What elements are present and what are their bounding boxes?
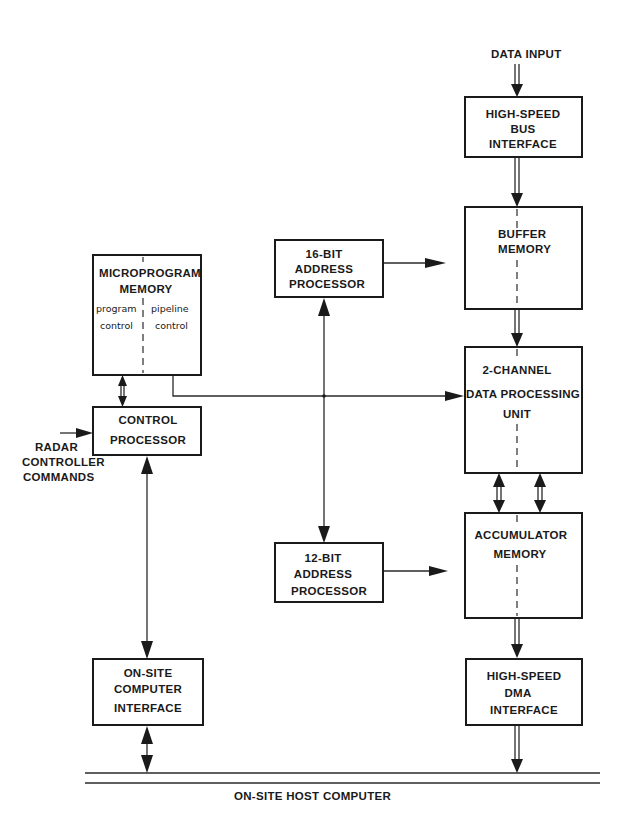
high-speed-bus-interface-block: HIGH-SPEED BUS INTERFACE xyxy=(465,97,582,157)
svg-text:DMA: DMA xyxy=(504,687,531,699)
data-input-arrow xyxy=(511,64,523,97)
svg-text:BUFFER: BUFFER xyxy=(498,228,547,240)
svg-text:ACCUMULATOR: ACCUMULATOR xyxy=(475,529,568,541)
address-processor-12bit-block: 12-BIT ADDRESS PROCESSOR xyxy=(275,543,383,602)
data-input-label: DATA INPUT xyxy=(491,48,562,60)
buffer-to-dpu-arrow xyxy=(511,310,523,347)
buffer-memory-block: BUFFER MEMORY xyxy=(465,207,582,309)
addr12-to-accumulator-arrow xyxy=(384,566,448,576)
pipeline-control-to-dpu-line xyxy=(173,376,464,401)
svg-text:INTERFACE: INTERFACE xyxy=(489,138,557,150)
svg-text:HIGH-SPEED: HIGH-SPEED xyxy=(487,670,562,682)
svg-text:pipeline: pipeline xyxy=(151,303,189,314)
svg-text:INTERFACE: INTERFACE xyxy=(114,702,182,714)
dma-to-host-arrow xyxy=(511,726,523,773)
onsite-computer-interface-block: ON-SITE COMPUTER INTERFACE xyxy=(93,659,203,725)
radar-commands-label-line2: CONTROLLER xyxy=(22,456,105,468)
control-processor-block: CONTROL PROCESSOR xyxy=(93,407,201,455)
radar-commands-label-line3: COMMANDS xyxy=(23,471,94,483)
svg-text:BUS: BUS xyxy=(510,123,535,135)
svg-text:HIGH-SPEED: HIGH-SPEED xyxy=(486,108,561,120)
address-processor-16bit-block: 16-BIT ADDRESS PROCESSOR xyxy=(275,240,383,297)
microprogram-memory-block: MICROPROGRAM MEMORY program control pipe… xyxy=(93,255,201,375)
addr16-to-buffer-arrow xyxy=(384,258,446,268)
high-speed-dma-interface-block: HIGH-SPEED DMA INTERFACE xyxy=(466,659,582,725)
svg-text:UNIT: UNIT xyxy=(503,408,531,420)
svg-text:program: program xyxy=(96,303,137,314)
svg-text:ADDRESS: ADDRESS xyxy=(294,568,352,580)
address-processors-bidir xyxy=(318,298,330,543)
svg-text:16-BIT: 16-BIT xyxy=(306,248,343,260)
svg-text:DATA PROCESSING: DATA PROCESSING xyxy=(466,388,580,400)
svg-text:ON-SITE: ON-SITE xyxy=(124,667,173,679)
microprogram-control-bidir xyxy=(118,375,127,407)
svg-text:MEMORY: MEMORY xyxy=(498,243,551,255)
svg-text:MICROPROGRAM: MICROPROGRAM xyxy=(99,267,201,279)
svg-text:control: control xyxy=(155,320,188,331)
svg-text:2-CHANNEL: 2-CHANNEL xyxy=(482,364,551,376)
onsite-to-host-bidir xyxy=(141,726,153,773)
block-diagram: DATA INPUT HIGH-SPEED BUS INTERFACE BUFF… xyxy=(0,0,619,824)
radar-commands-label-line1: RADAR xyxy=(35,441,78,453)
dpu-accumulator-bidir-right xyxy=(534,473,546,513)
svg-text:MEMORY: MEMORY xyxy=(493,548,546,560)
svg-text:12-BIT: 12-BIT xyxy=(305,552,342,564)
svg-text:PROCESSOR: PROCESSOR xyxy=(289,278,366,290)
host-computer-bus-label: ON-SITE HOST COMPUTER xyxy=(234,790,391,802)
svg-text:PROCESSOR: PROCESSOR xyxy=(291,585,368,597)
accumulator-memory-block: ACCUMULATOR MEMORY xyxy=(465,513,582,618)
svg-text:control: control xyxy=(100,320,133,331)
svg-text:MEMORY: MEMORY xyxy=(119,283,172,295)
data-processing-unit-block: 2-CHANNEL DATA PROCESSING UNIT xyxy=(465,347,582,473)
radar-commands-arrow xyxy=(60,428,93,438)
control-onsite-bidir xyxy=(141,456,153,659)
accumulator-to-dma-arrow xyxy=(511,619,523,658)
dpu-accumulator-bidir-left xyxy=(493,473,505,513)
svg-text:ADDRESS: ADDRESS xyxy=(295,263,353,275)
svg-text:PROCESSOR: PROCESSOR xyxy=(110,434,187,446)
bus-to-buffer-arrow xyxy=(511,158,523,207)
svg-text:COMPUTER: COMPUTER xyxy=(114,683,183,695)
svg-text:CONTROL: CONTROL xyxy=(119,414,178,426)
svg-text:INTERFACE: INTERFACE xyxy=(490,704,558,716)
